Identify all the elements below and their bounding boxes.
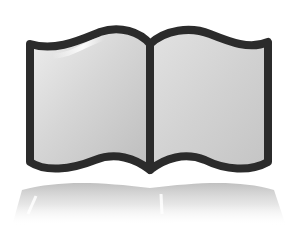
- open-book-icon: Open book: [0, 0, 296, 239]
- reflection: [12, 183, 286, 226]
- right-page: [150, 30, 268, 170]
- left-page: [30, 29, 150, 170]
- book-graphic: [0, 0, 296, 239]
